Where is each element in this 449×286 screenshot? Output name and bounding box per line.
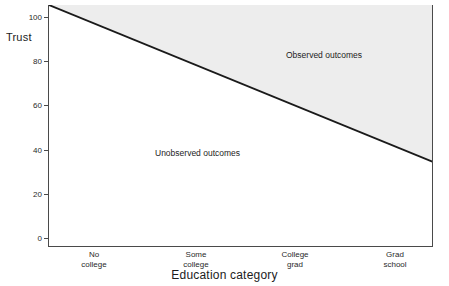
y-tick-100: 100 <box>0 13 48 21</box>
x-tick-some-college: Some college <box>151 250 241 270</box>
y-tick-0: 0 <box>0 234 48 242</box>
y-tick-label: 0 <box>38 234 42 243</box>
unobserved-region-label: Unobserved outcomes <box>155 148 240 158</box>
y-tick-80: 80 <box>0 57 48 65</box>
y-tick-40: 40 <box>0 146 48 154</box>
y-tick-label: 60 <box>33 101 42 110</box>
chart-figure: Trust 100 80 60 40 20 0 Observed outcome… <box>0 0 449 286</box>
y-tick-label: 40 <box>33 146 42 155</box>
y-tick-60: 60 <box>0 101 48 109</box>
x-axis-title: Education category <box>0 268 449 282</box>
observed-region-label: Observed outcomes <box>286 50 362 60</box>
x-tick-label-line1: College <box>250 250 340 260</box>
plot-area <box>48 5 433 247</box>
x-tick-no-college: No college <box>49 250 139 270</box>
y-axis-title: Trust <box>6 31 32 43</box>
y-tick-label: 100 <box>29 13 42 22</box>
x-tick-college-grad: College grad <box>250 250 340 270</box>
plot-canvas <box>49 5 433 246</box>
x-tick-grad-school: Grad school <box>350 250 440 270</box>
x-tick-label-line1: Some <box>151 250 241 260</box>
x-tick-label-line1: Grad <box>350 250 440 260</box>
y-tick-20: 20 <box>0 190 48 198</box>
x-tick-label-line1: No <box>49 250 139 260</box>
y-tick-label: 80 <box>33 57 42 66</box>
y-tick-label: 20 <box>33 190 42 199</box>
